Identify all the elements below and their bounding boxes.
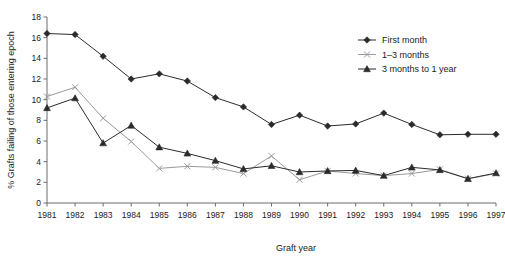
x-tick-label: 1992 — [346, 210, 365, 220]
y-tick-label: 0 — [36, 198, 41, 208]
data-point — [268, 162, 275, 168]
x-tick-label: 1983 — [94, 210, 113, 220]
x-tick-label: 1984 — [122, 210, 141, 220]
legend-item-first-month[interactable]: First month — [358, 35, 427, 45]
data-point — [269, 153, 275, 159]
y-tick-label: 4 — [36, 157, 41, 167]
x-tick-label: 1994 — [402, 210, 421, 220]
y-axis-title: % Grafts failing of those entering epoch — [6, 31, 16, 189]
x-tick-label: 1982 — [66, 210, 85, 220]
x-tick-label: 1995 — [430, 210, 449, 220]
line-chart: 024681012141618 198119821983198419851986… — [0, 0, 505, 263]
data-point — [324, 123, 330, 129]
x-tick-label: 1990 — [290, 210, 309, 220]
y-tick-label: 10 — [32, 95, 42, 105]
x-tick-label: 1987 — [206, 210, 225, 220]
data-point — [493, 131, 499, 137]
chart-figure: 024681012141618 198119821983198419851986… — [0, 0, 505, 263]
data-point — [100, 115, 106, 121]
y-tick-label: 16 — [32, 33, 42, 43]
x-tick-label: 1997 — [487, 210, 505, 220]
data-point — [240, 104, 246, 110]
data-point — [72, 95, 79, 101]
data-point — [212, 94, 218, 100]
x-axis: 1981198219831984198519861987198819891990… — [38, 203, 505, 220]
data-point — [465, 131, 471, 137]
x-tick-label: 1981 — [38, 210, 57, 220]
x-tick-label: 1986 — [178, 210, 197, 220]
data-point — [128, 139, 134, 145]
y-tick-label: 6 — [36, 136, 41, 146]
y-tick-label: 18 — [32, 12, 42, 22]
series-first-month — [44, 30, 499, 138]
data-point — [156, 71, 162, 77]
data-point — [128, 122, 135, 128]
data-point — [408, 164, 415, 170]
data-point — [409, 121, 415, 127]
x-tick-label: 1985 — [150, 210, 169, 220]
data-point — [297, 177, 303, 183]
y-tick-label: 12 — [32, 74, 42, 84]
series-3-months-to-1-year — [44, 95, 500, 182]
data-point — [44, 30, 50, 36]
legend-label: First month — [382, 35, 427, 45]
x-axis-title: Graft year — [276, 243, 316, 253]
data-point — [381, 110, 387, 116]
legend-label: 3 months to 1 year — [382, 64, 457, 74]
legend-marker — [364, 37, 370, 43]
x-tick-label: 1991 — [318, 210, 337, 220]
y-tick-label: 14 — [32, 53, 42, 63]
x-tick-label: 1989 — [262, 210, 281, 220]
legend-item-3-months-to-1-year[interactable]: 3 months to 1 year — [358, 64, 457, 74]
data-point — [156, 144, 163, 150]
x-tick-label: 1996 — [458, 210, 477, 220]
data-point — [296, 112, 302, 118]
data-point — [100, 140, 107, 146]
legend-label: 1–3 months — [382, 50, 430, 60]
y-tick-label: 8 — [36, 115, 41, 125]
data-series-group — [44, 30, 500, 182]
legend-item-1-3-months[interactable]: 1–3 months — [358, 50, 430, 60]
data-point — [184, 78, 190, 84]
data-point — [72, 84, 78, 90]
data-point — [352, 121, 358, 127]
x-tick-label: 1988 — [234, 210, 253, 220]
data-point — [437, 132, 443, 138]
data-point — [268, 121, 274, 127]
x-tick-label: 1993 — [374, 210, 393, 220]
chart-legend: First month1–3 months3 months to 1 year — [358, 35, 457, 74]
y-tick-label: 2 — [36, 177, 41, 187]
